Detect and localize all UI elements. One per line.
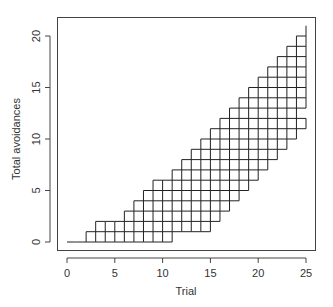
plot-box — [58, 18, 316, 251]
y-tick-label: 0 — [30, 239, 42, 245]
lattice-paths — [67, 26, 306, 242]
x-axis: 0510152025 — [64, 258, 312, 279]
x-tick-label: 10 — [156, 267, 168, 279]
x-tick-label: 15 — [204, 267, 216, 279]
y-axis: 05101520 — [30, 30, 50, 245]
x-tick-label: 25 — [300, 267, 312, 279]
x-axis-title: Trial — [176, 285, 197, 297]
y-axis-title: Total avoidances — [10, 98, 22, 180]
x-tick-label: 0 — [64, 267, 70, 279]
y-tick-label: 5 — [30, 187, 42, 193]
step-lattice-chart: 0510152025 05101520 Trial Total avoidanc… — [0, 0, 333, 307]
x-tick-label: 5 — [112, 267, 118, 279]
y-tick-label: 10 — [30, 133, 42, 145]
y-tick-label: 20 — [30, 30, 42, 42]
y-tick-label: 15 — [30, 81, 42, 93]
x-tick-label: 20 — [252, 267, 264, 279]
